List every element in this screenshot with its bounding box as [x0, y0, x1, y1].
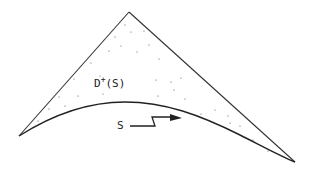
diagram-canvas — [0, 0, 313, 185]
surface-s-curve — [19, 102, 295, 162]
region-label-arg: (S) — [105, 77, 125, 90]
surface-label: S — [117, 120, 124, 131]
region-label-main: D — [94, 77, 101, 90]
region-label: D+(S) — [94, 78, 125, 89]
region-label-sup: + — [101, 75, 106, 84]
surface-arrow — [130, 114, 182, 126]
region-dots — [37, 24, 268, 151]
dependence-region-boundary — [19, 12, 295, 162]
